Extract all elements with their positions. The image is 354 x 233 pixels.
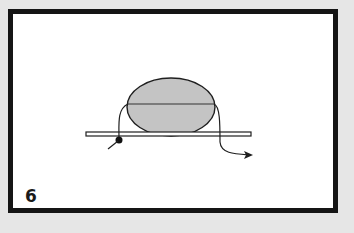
knot-diagram [13,14,333,208]
flat-bar [86,132,251,136]
cord-tail [108,141,118,149]
oval-object [127,78,215,136]
cord-right [214,104,251,155]
step-number: 6 [25,188,37,205]
diagram-panel: 6 [8,9,338,213]
